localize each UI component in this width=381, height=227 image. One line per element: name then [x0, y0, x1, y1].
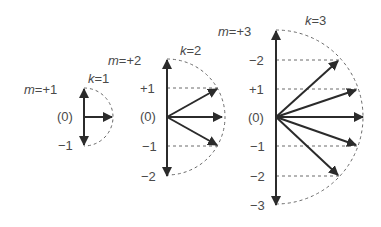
level-label: +1 — [249, 82, 264, 97]
diagram-k3: m=+3 k=3 −2 +1 (0) −1 −2 −3 — [218, 13, 363, 213]
vector-arrow — [276, 90, 356, 117]
vector-arrow — [276, 61, 338, 117]
level-label: −1 — [142, 139, 157, 154]
level-label: −2 — [250, 169, 265, 184]
center-label: (0) — [57, 109, 73, 124]
level-label: −2 — [141, 169, 156, 184]
vector-arrow — [167, 117, 217, 145]
level-label: −1 — [58, 138, 73, 153]
level-label: −1 — [250, 139, 265, 154]
level-label: −3 — [250, 198, 265, 213]
diagram-k1: m=+1 k=1 (0) −1 — [24, 71, 113, 153]
vector-arrow — [167, 89, 217, 117]
diagram-k2: m=+2 k=2 +1 (0) −1 −2 — [108, 43, 225, 184]
level-label: −2 — [249, 53, 264, 68]
top-label: m=+1 — [24, 82, 57, 97]
k-label: k=1 — [88, 71, 109, 86]
angular-momentum-diagram: m=+1 k=1 (0) −1 m=+2 k=2 +1 (0) −1 −2 m= — [0, 0, 381, 227]
top-label: m=+3 — [218, 24, 251, 39]
level-label: +1 — [140, 81, 155, 96]
k-label: k=2 — [180, 43, 201, 58]
center-label: (0) — [248, 110, 264, 125]
top-label: m=+2 — [108, 53, 141, 68]
vector-arrow — [276, 117, 338, 175]
vector-arrow — [276, 117, 356, 145]
center-label: (0) — [140, 109, 156, 124]
k-label: k=3 — [305, 13, 326, 28]
